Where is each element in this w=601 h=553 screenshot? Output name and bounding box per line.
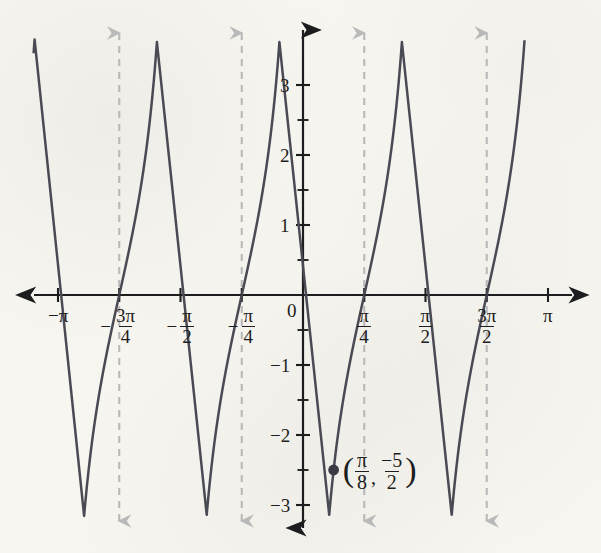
point-coordinate-annotation: (π8,−52) <box>343 450 417 493</box>
fraction: 3π4 <box>114 306 137 347</box>
coordinate-comma: , <box>371 466 376 492</box>
x-axis-tick-label: −π4 <box>228 306 256 347</box>
fraction-numerator: π <box>419 306 433 325</box>
fraction-denominator: 2 <box>480 326 494 346</box>
fraction-numerator: 3π <box>114 306 137 325</box>
x-axis-tick-label: −π <box>48 306 68 325</box>
x-axis-tick-label: π <box>543 306 553 325</box>
fraction-denominator: 4 <box>357 326 371 346</box>
curve-branch-0 <box>34 39 120 516</box>
minus-sign: − <box>167 317 178 336</box>
y-axis-tick-label: −1 <box>270 356 290 375</box>
fraction: 3π2 <box>475 306 498 347</box>
fraction-denominator: 4 <box>119 326 133 346</box>
fraction-denominator: 4 <box>242 326 256 346</box>
minus-sign: − <box>100 317 111 336</box>
fraction-denominator: 2 <box>180 326 194 346</box>
curve-branch-3 <box>364 42 486 515</box>
origin-label: 0 <box>287 301 297 320</box>
y-axis-tick-label: 1 <box>280 216 290 235</box>
fraction-numerator: π <box>357 306 371 325</box>
fraction: π2 <box>180 306 194 347</box>
fraction: −52 <box>379 450 404 493</box>
curve-branch-1 <box>119 42 241 515</box>
close-paren: ) <box>405 456 416 485</box>
open-paren: ( <box>343 456 354 485</box>
minus-sign: − <box>228 317 239 336</box>
annotated-point-marker[interactable] <box>328 465 339 476</box>
fraction: π8 <box>355 450 369 493</box>
fraction-numerator: π <box>241 306 255 325</box>
fraction: π4 <box>357 306 371 347</box>
curve-branch-4 <box>487 40 525 294</box>
y-axis-tick-label: 3 <box>280 76 290 95</box>
fraction: π2 <box>419 306 433 347</box>
x-axis-tick-label: −3π4 <box>100 306 138 347</box>
fraction: π4 <box>241 306 255 347</box>
fraction-numerator: −5 <box>379 450 404 470</box>
fraction-denominator: 2 <box>385 471 399 492</box>
x-axis-tick-label: π2 <box>418 306 434 347</box>
fraction-numerator: π <box>355 450 369 470</box>
fraction-numerator: 3π <box>475 306 498 325</box>
figure-canvas: −π−3π4−π2−π40π4π23π2π321−1−2−3(π8,−52) <box>0 0 601 553</box>
cotangent-graph <box>0 0 601 553</box>
x-axis-tick-label: π4 <box>356 306 372 347</box>
fraction-denominator: 2 <box>419 326 433 346</box>
y-axis-tick-label: −2 <box>270 426 290 445</box>
x-axis-tick-label: −π2 <box>167 306 195 347</box>
y-axis-tick-label: 2 <box>280 146 290 165</box>
x-axis-tick-label: 3π2 <box>474 306 499 347</box>
fraction-numerator: π <box>180 306 194 325</box>
fraction-denominator: 8 <box>355 471 369 492</box>
y-axis-tick-label: −3 <box>270 496 290 515</box>
